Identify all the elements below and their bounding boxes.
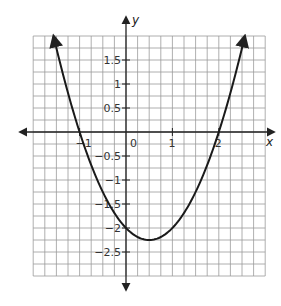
x-tick-label: 0 [130, 137, 137, 150]
y-tick-label: 1 [114, 78, 121, 91]
y-tick-label: −1 [105, 174, 121, 187]
y-tick-label: −2 [105, 222, 121, 235]
y-tick-label: 1.5 [104, 54, 122, 67]
y-tick-label: −2.5 [94, 246, 121, 259]
x-tick-label: 1 [168, 137, 175, 150]
y-axis-label: y [131, 13, 140, 27]
parabola-chart: −10121.510.5−0.5−1−1.5−2−2.5 x y [0, 0, 281, 306]
y-tick-label: 0.5 [104, 102, 122, 115]
x-axis-label: x [265, 135, 274, 149]
y-tick-label: −0.5 [94, 150, 121, 163]
